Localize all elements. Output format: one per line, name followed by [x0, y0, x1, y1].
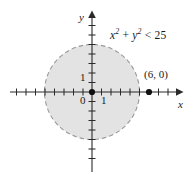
y-axis-arrowhead	[88, 11, 96, 19]
y-axis-unit-label: 1	[80, 72, 86, 83]
origin-label: 0	[80, 95, 86, 106]
inequality-plus-sign: +	[119, 29, 132, 41]
origin-point	[89, 89, 95, 95]
inequality-relation: < 25	[142, 29, 167, 41]
point-6-0	[146, 89, 152, 95]
point-coordinate-label: (6, 0)	[144, 69, 168, 80]
y-axis-label: y	[79, 12, 84, 23]
x-axis-arrowhead	[176, 88, 184, 96]
inequality-annotation: x2 + y2 < 25	[110, 28, 166, 41]
x-axis-unit-label: 1	[101, 95, 107, 106]
graph-figure: x2 + y2 < 25 (6, 0) x y 1 0 1	[0, 0, 195, 182]
x-axis-label: x	[178, 99, 183, 110]
